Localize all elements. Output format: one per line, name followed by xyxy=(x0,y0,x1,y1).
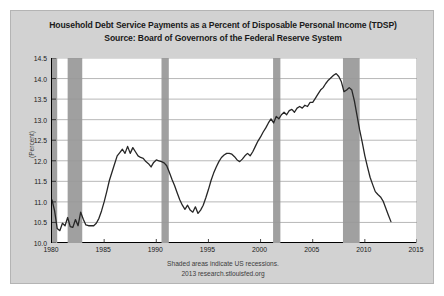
y-tick-label: 13.0 xyxy=(34,116,47,123)
chart-title: Household Debt Service Payments as a Per… xyxy=(11,19,435,32)
x-tick-label: 1985 xyxy=(96,246,111,253)
data-line-TDSP xyxy=(52,74,391,231)
recession-note: Shaded areas indicate US recessions. xyxy=(11,259,435,269)
x-tick-label: 1990 xyxy=(148,246,163,253)
chart-footer: Shaded areas indicate US recessions. 201… xyxy=(11,259,435,279)
source-note: 2013 research.stlouisfed.org xyxy=(11,269,435,279)
x-tick-label: 1995 xyxy=(200,246,215,253)
plot-area-wrapper: 10.010.511.011.512.012.513.013.514.014.5… xyxy=(51,58,416,243)
y-tick-label: 11.5 xyxy=(34,178,47,185)
x-tick-label: 2015 xyxy=(408,246,423,253)
x-tick-label: 2010 xyxy=(356,246,371,253)
x-tick-label: 2005 xyxy=(304,246,319,253)
chart-title-block: Household Debt Service Payments as a Per… xyxy=(11,19,435,45)
y-tick-label: 14.0 xyxy=(34,75,47,82)
y-tick-label: 12.0 xyxy=(34,157,47,164)
chart-subtitle: Source: Board of Governors of the Federa… xyxy=(11,32,435,45)
recession-band xyxy=(273,58,280,243)
y-axis-label: (Percent) xyxy=(28,115,35,175)
y-tick-label: 14.5 xyxy=(34,55,47,62)
y-tick-label: 10.5 xyxy=(34,219,47,226)
chart-svg xyxy=(52,58,417,243)
recession-band xyxy=(162,58,169,243)
y-tick-label: 13.5 xyxy=(34,96,47,103)
y-tick-label: 11.0 xyxy=(34,198,47,205)
chart-figure: Household Debt Service Payments as a Per… xyxy=(10,10,434,284)
y-tick-label: 12.5 xyxy=(34,137,47,144)
plot-area xyxy=(51,58,416,243)
recession-band xyxy=(343,58,360,243)
x-tick-label: 2000 xyxy=(252,246,267,253)
x-tick-label: 1980 xyxy=(43,246,58,253)
